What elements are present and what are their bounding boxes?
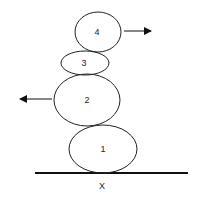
body-1-label: 1: [100, 144, 105, 154]
body-4: 4: [75, 12, 121, 52]
stacked-bodies-diagram: X 1 2 3 4: [0, 0, 199, 197]
body-3-label: 3: [81, 58, 86, 68]
ground-label: X: [99, 181, 105, 191]
body-3: 3: [61, 51, 109, 75]
body-1: 1: [69, 125, 137, 173]
body-2: 2: [54, 74, 120, 126]
body-4-label: 4: [94, 27, 99, 37]
body-2-label: 2: [84, 95, 89, 105]
